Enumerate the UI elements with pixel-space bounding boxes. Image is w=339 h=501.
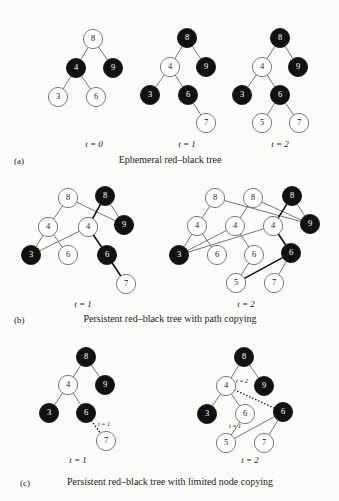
tree-node-6[interactable]: 6	[58, 245, 77, 264]
tree-time-label: t = 1	[74, 299, 92, 309]
tree-node-6[interactable]: 6	[76, 403, 95, 422]
node-label-3: 3	[29, 249, 33, 259]
tree-node-9[interactable]: 9	[103, 58, 122, 77]
tree-node-8[interactable]: 8	[95, 186, 114, 205]
tree-node-5[interactable]: 5	[216, 433, 235, 452]
tree-node-4[interactable]: 4	[78, 217, 97, 236]
tree-a-2: 8493657t = 2	[232, 28, 308, 149]
tree-node-4[interactable]: 4	[38, 217, 57, 236]
tree-edge-b6-n5	[241, 263, 249, 275]
tree-node-9[interactable]: 9	[114, 215, 133, 234]
tree-node-3[interactable]: 3	[232, 85, 251, 104]
tree-edge-n8-n9	[249, 365, 258, 378]
tree-node-4[interactable]: 4	[58, 375, 77, 394]
tree-node-6[interactable]: 6	[235, 404, 254, 423]
tree-node-9[interactable]: 9	[300, 214, 319, 233]
node-label-5: 5	[224, 437, 228, 447]
node-label-6: 6	[105, 249, 109, 259]
tree-edge-n4-n6	[81, 76, 90, 89]
tree-node-3[interactable]: 3	[140, 85, 159, 104]
tree-node-8[interactable]: 8	[243, 188, 262, 207]
node-label-9: 9	[103, 379, 107, 389]
tree-node-6[interactable]: 6	[244, 245, 263, 264]
tree-b-1: 8884449366657t = 2	[169, 186, 319, 309]
tree-node-8[interactable]: 8	[270, 28, 289, 47]
panel-b: 884493667t = 18884449366657t = 2(b)Persi…	[14, 186, 320, 325]
tree-node-6[interactable]: 6	[86, 87, 105, 106]
tree-node-6[interactable]: 6	[207, 245, 226, 264]
node-label-6: 6	[281, 406, 285, 416]
figure-canvas: 84936t = 0849367t = 18493657t = 2(a)Ephe…	[0, 0, 339, 501]
tree-node-7[interactable]: 7	[289, 113, 308, 132]
tree-edge-b4-b6	[93, 235, 101, 247]
tree-edge-b6-n7	[112, 263, 120, 276]
tree-node-3[interactable]: 3	[48, 87, 67, 106]
node-label-5: 5	[234, 277, 238, 287]
tree-edge-n6-n5	[267, 103, 275, 115]
node-label-8: 8	[290, 190, 294, 200]
tree-edge-n4-n6	[73, 393, 81, 405]
tree-c-1: 84936657t = 2t = 1t = 2	[197, 347, 292, 465]
node-label-6: 6	[243, 408, 247, 418]
tree-node-6[interactable]: 6	[270, 85, 289, 104]
tree-node-8[interactable]: 8	[76, 347, 95, 366]
tree-edge-n8-n9	[91, 365, 99, 377]
tree-edge-n4-n3	[54, 393, 62, 405]
panel-caption: Ephemeral red–black tree	[119, 154, 222, 165]
tree-node-7[interactable]: 7	[96, 431, 115, 450]
tree-node-4[interactable]: 4	[160, 57, 179, 76]
tree-node-4[interactable]: 4	[252, 57, 271, 76]
tree-edge-c6-n7	[279, 261, 287, 274]
node-label-8: 8	[91, 33, 95, 43]
tree-node-9[interactable]: 9	[254, 376, 273, 395]
tree-b-0: 884493667t = 1	[21, 186, 135, 309]
tree-node-4[interactable]: 4	[225, 216, 244, 235]
tree-node-5[interactable]: 5	[252, 113, 271, 132]
tree-node-6[interactable]: 6	[178, 85, 197, 104]
tree-node-9[interactable]: 9	[95, 375, 114, 394]
node-label-9: 9	[122, 219, 126, 229]
tree-node-3[interactable]: 3	[21, 245, 40, 264]
node-label-6: 6	[186, 89, 190, 99]
tree-node-7[interactable]: 7	[264, 273, 283, 292]
tree-node-6[interactable]: 6	[97, 245, 116, 264]
tree-node-4[interactable]: 4	[187, 216, 206, 235]
tree-node-4[interactable]: 4	[216, 376, 235, 395]
tree-edge-b8-n9	[110, 204, 118, 217]
tree-edge-n8-n9	[285, 46, 293, 59]
tree-node-4[interactable]: 4	[263, 216, 282, 235]
tree-edge-a8-a4	[53, 206, 62, 219]
node-label-8: 8	[278, 32, 282, 42]
tree-node-3[interactable]: 3	[39, 403, 58, 422]
tree-node-5[interactable]: 5	[226, 273, 245, 292]
tree-edge-a4-n3	[184, 234, 192, 247]
node-label-6: 6	[252, 249, 256, 259]
tree-node-8[interactable]: 8	[234, 347, 253, 366]
tree-node-8[interactable]: 8	[205, 188, 224, 207]
tree-node-8[interactable]: 8	[282, 186, 301, 205]
tree-node-3[interactable]: 3	[169, 245, 188, 264]
tree-node-7[interactable]: 7	[116, 274, 135, 293]
tree-node-7[interactable]: 7	[254, 433, 273, 452]
tree-node-9[interactable]: 9	[196, 57, 215, 76]
tree-edge-b8-b4	[240, 206, 248, 218]
tree-edge-n4-n6	[231, 394, 239, 406]
tree-node-8[interactable]: 8	[58, 188, 77, 207]
node-label-7: 7	[272, 277, 276, 287]
tree-node-7[interactable]: 7	[196, 113, 215, 132]
tree-edge-n4-n6	[267, 75, 275, 87]
tree-node-3[interactable]: 3	[197, 404, 216, 423]
tree-node-8[interactable]: 8	[83, 29, 102, 48]
tree-edge-n8-n4	[81, 47, 88, 59]
tree-edge-a8-a4	[202, 206, 210, 218]
node-label-7: 7	[297, 117, 301, 127]
tree-node-8[interactable]: 8	[177, 28, 196, 47]
tree-node-6[interactable]: 6	[273, 402, 292, 421]
node-label-5: 5	[260, 117, 264, 127]
node-label-9: 9	[296, 61, 300, 71]
tree-node-4[interactable]: 4	[66, 58, 85, 77]
tree-node-6[interactable]: 6	[281, 243, 300, 262]
panel-caption: Persistent red–black tree with path copy…	[83, 313, 256, 324]
figure-persistent-red-black-trees: 84936t = 0849367t = 18493657t = 2(a)Ephe…	[0, 0, 339, 501]
tree-node-9[interactable]: 9	[288, 57, 307, 76]
